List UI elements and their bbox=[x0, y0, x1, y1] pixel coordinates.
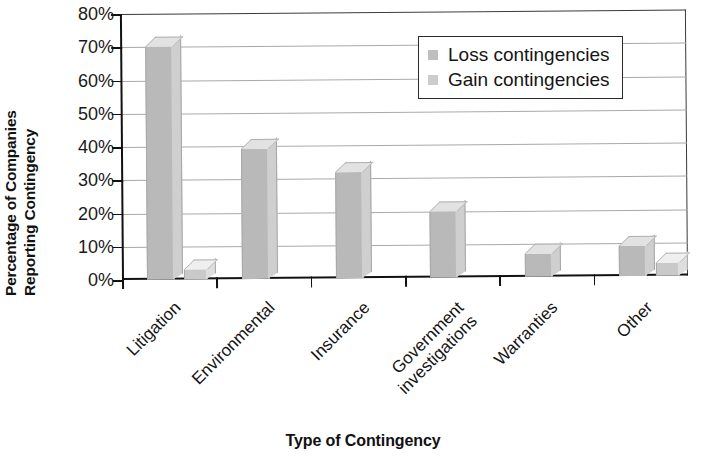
bar-face bbox=[656, 262, 680, 275]
y-tick-label: 70% bbox=[60, 38, 114, 56]
bar-face bbox=[184, 269, 208, 279]
y-axis-title: Percentage of Companies Reporting Contin… bbox=[0, 0, 62, 290]
bar-face bbox=[619, 246, 647, 276]
y-axis-tick bbox=[112, 147, 123, 149]
x-category-label-line: Other bbox=[613, 298, 657, 342]
bar-loss-4 bbox=[525, 244, 551, 276]
plot-top-border bbox=[120, 10, 686, 16]
chart-legend: Loss contingenciesGain contingencies bbox=[418, 36, 623, 99]
y-axis-tick bbox=[113, 247, 124, 249]
y-axis-tick bbox=[112, 114, 123, 116]
y-tick-label: 40% bbox=[60, 138, 114, 156]
bar-face bbox=[335, 172, 364, 279]
y-axis-tick bbox=[111, 14, 122, 16]
x-axis-title: Type of Contingency bbox=[0, 432, 726, 450]
y-axis-tick bbox=[112, 213, 123, 215]
bar-loss-2 bbox=[335, 163, 362, 279]
legend-label: Loss contingencies bbox=[448, 45, 610, 64]
bar-face bbox=[525, 253, 553, 276]
legend-item: Loss contingencies bbox=[428, 42, 610, 67]
y-axis-tick bbox=[112, 180, 123, 182]
x-category-label-line: Insurance bbox=[307, 298, 373, 364]
bar-side bbox=[361, 160, 372, 278]
x-category-label-line: Litigation bbox=[123, 298, 185, 360]
y-axis-tick bbox=[111, 47, 122, 49]
y-tick-label: 0% bbox=[60, 271, 114, 289]
bar-loss-1 bbox=[241, 140, 268, 279]
bar-side bbox=[172, 36, 184, 280]
x-category-label: Litigation bbox=[30, 298, 185, 453]
y-tick-label: 30% bbox=[60, 171, 114, 189]
y-tick-label: 80% bbox=[60, 5, 114, 23]
bar-gain-5 bbox=[656, 253, 678, 275]
bar-loss-0 bbox=[146, 38, 174, 280]
x-category-label-line: Environmental bbox=[189, 298, 279, 388]
y-tick-label: 10% bbox=[60, 238, 114, 256]
legend-label: Gain contingencies bbox=[448, 70, 610, 89]
bar-face bbox=[241, 149, 270, 279]
legend-item: Gain contingencies bbox=[428, 67, 610, 92]
chart-container: Percentage of Companies Reporting Contin… bbox=[0, 0, 726, 464]
bar-face bbox=[430, 211, 459, 278]
gridline bbox=[121, 109, 687, 114]
gridline bbox=[121, 209, 687, 214]
y-axis-tick bbox=[111, 80, 122, 82]
bar-side bbox=[267, 138, 278, 279]
y-axis-title-line-2: Reporting Contingency bbox=[21, 129, 39, 296]
bar-gain-0 bbox=[184, 260, 206, 279]
legend-swatch-icon bbox=[428, 50, 438, 60]
bar-loss-5 bbox=[619, 237, 645, 276]
y-tick-label: 50% bbox=[60, 105, 114, 123]
y-axis-title-line-1: Percentage of Companies bbox=[2, 110, 20, 296]
x-category-label-line: Warranties bbox=[491, 298, 562, 369]
gridline bbox=[121, 176, 687, 181]
legend-swatch-icon bbox=[428, 75, 438, 85]
x-axis-category-labels: LitigationEnvironmentalInsuranceGovernme… bbox=[122, 284, 688, 414]
bar-loss-3 bbox=[430, 202, 457, 278]
y-tick-label: 60% bbox=[60, 72, 114, 90]
gridline bbox=[121, 143, 687, 148]
y-tick-label: 20% bbox=[60, 205, 114, 223]
gridline bbox=[122, 242, 688, 247]
